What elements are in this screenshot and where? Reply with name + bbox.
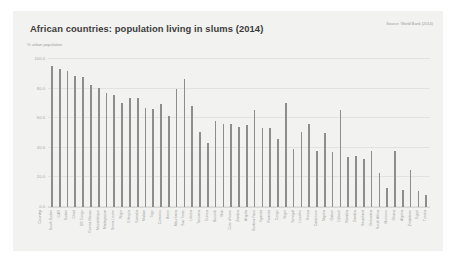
x-axis-tick-label: DR Congo (81, 210, 85, 226)
bar-slot (259, 59, 267, 207)
bar (324, 133, 326, 207)
bar (184, 79, 186, 207)
bar (277, 139, 279, 207)
bar (394, 151, 396, 207)
bar-slot (391, 59, 399, 207)
bar (425, 195, 427, 207)
x-axis-tick-label: Zambia (237, 210, 241, 222)
x-label-slot: Kenya (305, 208, 313, 270)
bar (168, 116, 170, 207)
bar (340, 110, 342, 207)
bar-slot (142, 59, 150, 207)
bar (254, 110, 256, 207)
bar-slot (196, 59, 204, 207)
x-label-slot: Togo (149, 208, 157, 270)
x-label-slot: Gambia (352, 208, 360, 270)
bar-slot (95, 59, 103, 207)
x-label-slot: Liberia (188, 208, 196, 270)
bar-slot (64, 59, 72, 207)
bar (386, 188, 388, 207)
x-label-slot: Malawi (142, 208, 150, 270)
x-label-slot: DR Congo (79, 208, 87, 270)
y-axis-tick-label: 60.0 (37, 115, 45, 120)
bar-slot (282, 59, 290, 207)
x-axis-tick-label: Mozambique (97, 210, 101, 230)
x-axis-tick-label: Ethiopia (128, 210, 132, 223)
bar (129, 98, 131, 207)
bar-slot (118, 59, 126, 207)
bar-slot (329, 59, 337, 207)
x-axis-tick-label: Swaziland (362, 210, 366, 226)
x-label-slot: Mali (220, 208, 228, 270)
x-axis-tick-label: Mali (222, 210, 226, 216)
bar (145, 108, 147, 207)
bar (316, 151, 318, 207)
y-axis-tick-label: 80.0 (37, 85, 45, 90)
x-axis-tick-label: Guinea (206, 210, 210, 221)
x-axis-tick-label: Chad (74, 210, 78, 218)
x-label-slot: South Sudan (48, 208, 56, 270)
bar-slot (212, 59, 220, 207)
x-label-slot: Burkina Faso (251, 208, 259, 270)
x-axis-tick-label: Burundi (214, 210, 218, 222)
x-label-slot: Somalia (134, 208, 142, 270)
bar (246, 125, 248, 207)
bar (347, 157, 349, 207)
bar (74, 76, 76, 207)
x-label-slot: Botswana (368, 208, 376, 270)
x-label-slot: Lesotho (298, 208, 306, 270)
x-axis-tick-label: Liberia (190, 210, 194, 221)
bar (262, 128, 264, 207)
x-axis-tick-label: Zimbabwe (409, 210, 413, 226)
x-axis-tick-label: Rwanda (268, 210, 272, 223)
x-axis-tick-label: Algeria (401, 210, 405, 221)
x-axis-tick-label: Niger (120, 210, 124, 218)
x-label-slot: Ethiopia (126, 208, 134, 270)
x-label-slot: South Africa (375, 208, 383, 270)
bar (410, 170, 412, 207)
x-label-slot: Gabon (329, 208, 337, 270)
bar (176, 89, 178, 207)
bar-slot (227, 59, 235, 207)
x-axis-tick-label: Comoros (159, 210, 163, 224)
bar (332, 152, 334, 207)
x-label-slot: Guinea (204, 208, 212, 270)
bar (137, 98, 139, 207)
x-label-slot: Comoros (157, 208, 165, 270)
bar (223, 124, 225, 207)
y-axis-tick-label: 40.0 (37, 144, 45, 149)
bar (199, 132, 201, 207)
x-label-slot: Burundi (212, 208, 220, 270)
x-label-slot: Swaziland (360, 208, 368, 270)
x-label-slot: Cameroon (313, 208, 321, 270)
x-axis-tick-label: Lesotho (300, 210, 304, 222)
x-label-slot: Senegal (290, 208, 298, 270)
x-label-slot: Tunisia (422, 208, 430, 270)
x-axis-tick-label: Sierra Leone (113, 210, 117, 230)
bar-slot (383, 59, 391, 207)
bar-slot (243, 59, 251, 207)
bar-slot (204, 59, 212, 207)
x-axis-tick-label: Angola (245, 210, 249, 221)
x-axis-tick-label: Madagascar (105, 210, 109, 229)
y-axis-tick-label: 20.0 (37, 174, 45, 179)
bar-slot (165, 59, 173, 207)
bar-slot (305, 59, 313, 207)
x-label-slot: Niger (118, 208, 126, 270)
x-label-slot: Guinea-Bissau (87, 208, 95, 270)
bar-slot (251, 59, 259, 207)
bar-slot (313, 59, 321, 207)
bar (363, 159, 365, 207)
bar (160, 104, 162, 207)
bar (293, 149, 295, 207)
bar (191, 106, 193, 207)
bar (308, 124, 310, 207)
bar-slot (321, 59, 329, 207)
x-axis-tick-label: Sudan (66, 210, 70, 220)
bar (121, 103, 123, 207)
x-axis-tick-label: Tunisia (424, 210, 428, 221)
bar (90, 85, 92, 207)
x-axis-tick-label: Nigeria (323, 210, 327, 221)
bar-slot (266, 59, 274, 207)
bar (82, 77, 84, 207)
